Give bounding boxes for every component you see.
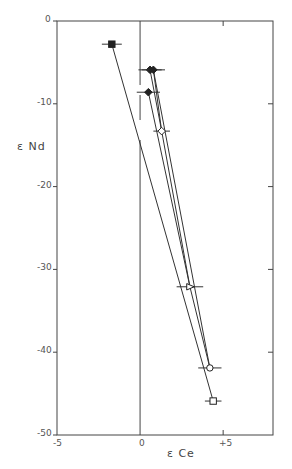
data-point-filled-square [102,41,122,47]
y-tick-label-minus20: -20 [37,180,52,190]
x-axis-title: ε Ce [167,447,195,460]
data-point-open-triangle [177,284,204,290]
connecting-lines [112,44,213,401]
diamond-marker [145,88,153,96]
connecting-line [112,44,213,401]
circle-marker [207,365,213,371]
x-tick-label-plus5: +5 [219,438,232,448]
data-point-open-square [205,398,222,404]
y-tick-label-0: 0 [45,14,51,24]
y-tick-label-minus50: -50 [37,428,52,438]
y-tick-label-minus40: -40 [37,345,52,355]
y-tick-label-minus30: -30 [37,262,52,272]
data-points [102,41,222,404]
square-marker [109,41,115,47]
y-tick-label-minus10: -10 [37,97,52,107]
chart-canvas [0,0,292,469]
data-point-filled-diamond [142,66,165,74]
plot-frame [53,21,273,435]
square-marker [210,398,216,404]
x-tick-label-0: 0 [139,438,145,448]
y-axis-title: ε Nd [17,140,46,153]
connecting-line [162,131,190,287]
x-tick-label-minus5: -5 [53,438,62,448]
connecting-line [148,92,190,287]
data-point-open-circle [198,365,221,371]
plot-border [57,21,273,435]
